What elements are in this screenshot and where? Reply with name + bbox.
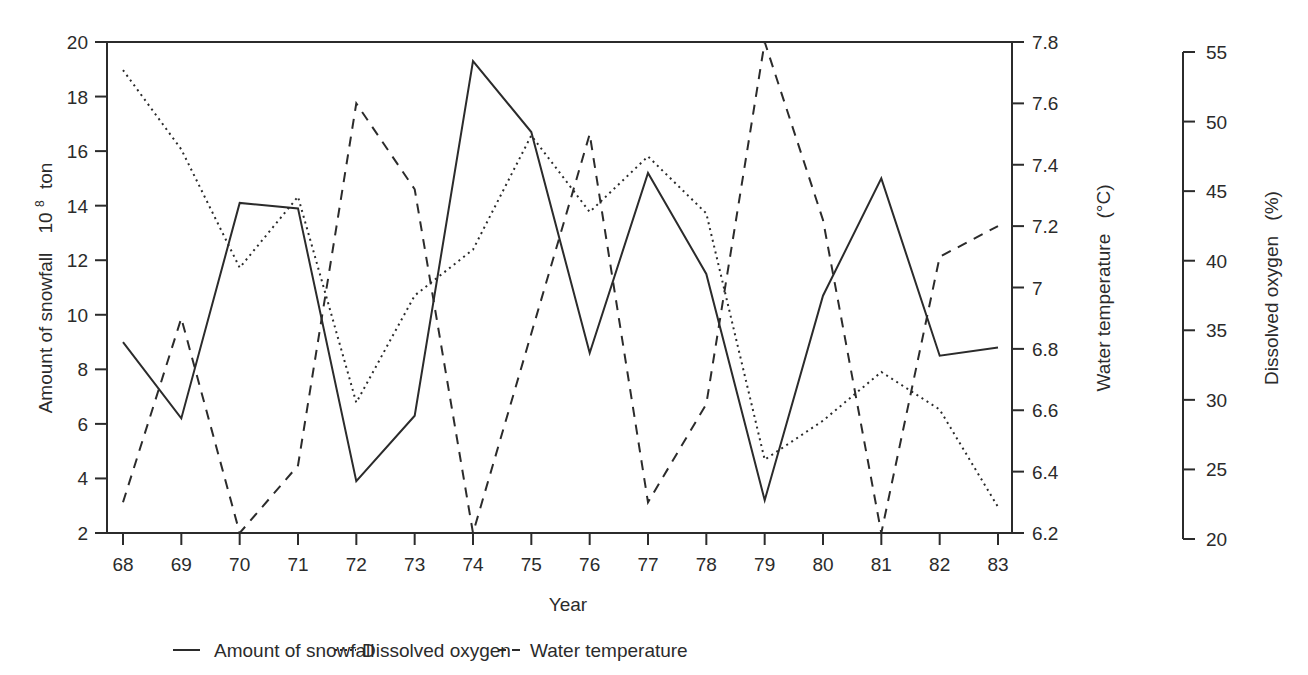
right-inner-axis-title: Water temperature (°C) [1093, 185, 1114, 392]
left-axis-tick-label: 14 [67, 196, 89, 217]
right-outer-axis-tick-label: 30 [1206, 390, 1227, 411]
right-outer-axis-tick-label: 25 [1206, 459, 1227, 480]
x-axis-tick-label: 82 [929, 554, 950, 575]
legend-item-water-temperature: Water temperature [498, 640, 688, 661]
right-inner-axis-tick-label: 7.4 [1032, 155, 1059, 176]
x-axis-tick-label: 81 [871, 554, 892, 575]
legend-label-dissolved-oxygen: Dissolved oxygen [362, 640, 511, 661]
svg-text:Dissolved oxygen (%): Dissolved oxygen (%) [1261, 191, 1282, 385]
left-axis-unit-word: ton [35, 163, 56, 189]
left-axis-tick-label: 18 [67, 87, 88, 108]
x-axis-tick-label: 68 [112, 554, 133, 575]
right-inner-axis-tick-label: 7.2 [1032, 216, 1058, 237]
legend-label-water-temperature: Water temperature [530, 640, 688, 661]
x-axis-tick-label: 80 [812, 554, 833, 575]
right-inner-axis-tick-label: 6.2 [1032, 523, 1058, 544]
x-axis-tick-label: 77 [637, 554, 658, 575]
right-outer-axis-tick-label: 20 [1206, 529, 1227, 550]
series-group [123, 42, 998, 533]
left-axis-tick-label: 8 [77, 359, 88, 380]
left-axis-tick-label: 6 [77, 414, 88, 435]
x-axis-tick-label: 83 [987, 554, 1008, 575]
left-axis-tick-label: 12 [67, 250, 88, 271]
right-outer-axis-tick-label: 50 [1206, 112, 1227, 133]
right-outer-axis-ticks: 2025303540455055 [1183, 42, 1227, 550]
right-inner-axis-tick-label: 6.4 [1032, 462, 1059, 483]
x-axis-tick-label: 72 [346, 554, 367, 575]
right-inner-axis-tick-label: 7.6 [1032, 93, 1058, 114]
x-axis-tick-label: 75 [521, 554, 542, 575]
right-inner-axis-tick-label: 7.8 [1032, 32, 1058, 53]
svg-text:Amount of snowfall 10: Amount of snowfall 10 8 ton [27, 163, 56, 414]
x-axis-tick-label: 73 [404, 554, 425, 575]
right-inner-axis-ticks: 6.26.46.66.877.27.47.67.8 [1012, 32, 1059, 544]
x-axis-tick-label: 71 [287, 554, 308, 575]
right-inner-axis-tick-label: 7 [1032, 278, 1043, 299]
left-axis-unit-exponent: 8 [33, 200, 47, 207]
x-axis-ticks: 68697071727374757677787980818283 [112, 533, 1008, 575]
right-outer-axis-label: Dissolved oxygen [1261, 236, 1282, 385]
right-inner-axis-label: Water temperature [1093, 234, 1114, 392]
x-axis-title: Year [549, 594, 588, 615]
series-line-dissolved-oxygen [123, 70, 998, 507]
right-inner-axis-tick-label: 6.8 [1032, 339, 1058, 360]
left-axis-tick-label: 10 [67, 305, 88, 326]
right-inner-axis-unit: (°C) [1093, 185, 1114, 219]
x-axis-tick-label: 78 [696, 554, 717, 575]
x-axis-tick-label: 70 [229, 554, 250, 575]
left-axis-tick-label: 4 [77, 468, 88, 489]
left-axis-label: Amount of snowfall [35, 253, 56, 414]
legend: Amount of snowfall Dissolved oxygen Wate… [173, 640, 688, 661]
plot-frame [95, 42, 1183, 539]
left-axis-unit-base: 10 [35, 212, 56, 233]
right-outer-axis-tick-label: 45 [1206, 181, 1227, 202]
legend-item-dissolved-oxygen: Dissolved oxygen [335, 640, 511, 661]
left-axis-tick-label: 16 [67, 141, 88, 162]
left-axis-title: Amount of snowfall 10 8 ton [27, 163, 56, 414]
x-axis-tick-label: 76 [579, 554, 600, 575]
right-outer-axis-tick-label: 55 [1206, 42, 1227, 63]
right-outer-axis-tick-label: 40 [1206, 251, 1227, 272]
legend-item-snowfall: Amount of snowfall [173, 640, 375, 661]
chart: 2468101214161820 6.26.46.66.877.27.47.67… [0, 0, 1308, 675]
left-axis-tick-label: 20 [67, 32, 88, 53]
svg-text:Water temperature (°C): Water temperature (°C) [1093, 185, 1114, 392]
left-axis-ticks: 2468101214161820 [67, 32, 107, 544]
x-axis-tick-label: 74 [462, 554, 484, 575]
x-axis-tick-label: 69 [171, 554, 192, 575]
x-axis-tick-label: 79 [754, 554, 775, 575]
series-line-amount-of-snowfall [123, 61, 998, 500]
series-line-water-temperature [123, 42, 998, 533]
left-axis-tick-label: 2 [77, 523, 88, 544]
right-outer-axis-title: Dissolved oxygen (%) [1261, 191, 1282, 385]
right-outer-axis-tick-label: 35 [1206, 320, 1227, 341]
right-outer-axis-unit: (%) [1261, 191, 1282, 221]
right-inner-axis-tick-label: 6.6 [1032, 400, 1058, 421]
